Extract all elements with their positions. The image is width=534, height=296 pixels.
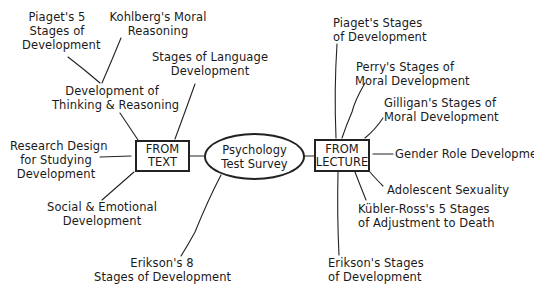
- center-line-2: Test Survey: [221, 157, 287, 171]
- connector-piaget-lecture: [335, 44, 337, 138]
- connector-kubler: [355, 172, 366, 200]
- connector-erikson8: [181, 175, 221, 256]
- connector-perry: [342, 83, 365, 138]
- center-line-1: Psychology: [222, 143, 287, 157]
- connector-gilligan: [365, 118, 383, 138]
- topic-gender-role: Gender Role Development: [395, 147, 527, 161]
- topic-kohlberg: Kohlberg's Moral Reasoning: [103, 10, 213, 38]
- connector-kohlberg: [102, 38, 121, 83]
- topic-erikson-8: Erikson's 8 Stages of Development: [94, 256, 230, 284]
- topic-thinking-reasoning: Development of Thinking & Reasoning: [52, 84, 172, 112]
- topic-kubler-ross: Kübler-Ross's 5 Stages of Adjustment to …: [358, 202, 484, 230]
- topic-piaget-5-stages: Piaget's 5 Stages of Development: [22, 10, 92, 52]
- topic-gilligan: Gilligan's Stages of Moral Development: [384, 96, 496, 124]
- lecture-hub-line-1: FROM: [325, 143, 359, 156]
- connector-piaget5: [68, 57, 100, 83]
- connector-social: [102, 172, 134, 200]
- topic-language: Stages of Language Development: [150, 50, 270, 78]
- from-text-hub: FROM TEXT: [135, 140, 190, 172]
- connector-thinking: [120, 113, 138, 140]
- from-lecture-hub: FROM LECTURE: [314, 139, 370, 172]
- mind-map: Psychology Test Survey FROM TEXT FROM LE…: [0, 0, 534, 296]
- topic-adolescent-sexuality: Adolescent Sexuality: [387, 183, 497, 197]
- connector-adolescent: [369, 171, 383, 186]
- connector-research: [100, 156, 131, 157]
- topic-perry: Perry's Stages of Moral Development: [355, 60, 455, 88]
- topic-erikson-lecture: Erikson's Stages of Development: [328, 256, 418, 284]
- topic-research-design: Research Design for Studying Development: [10, 139, 102, 181]
- connector-erikson-lecture: [338, 172, 339, 255]
- text-hub-line-2: TEXT: [148, 156, 177, 169]
- center-node: Psychology Test Survey: [204, 133, 305, 180]
- topic-piaget-lecture: Piaget's Stages of Development: [333, 16, 423, 44]
- topic-social-emotional: Social & Emotional Development: [46, 200, 158, 228]
- lecture-hub-line-2: LECTURE: [316, 156, 368, 169]
